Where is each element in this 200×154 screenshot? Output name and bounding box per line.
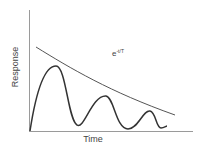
damped-response-diagram: e-t/T Time Response bbox=[0, 0, 200, 154]
x-axis-label: Time bbox=[83, 134, 103, 144]
envelope-label: e-t/T bbox=[112, 48, 124, 58]
y-axis-label: Response bbox=[10, 47, 20, 88]
response-curve bbox=[30, 66, 167, 131]
envelope-curve bbox=[36, 47, 175, 115]
